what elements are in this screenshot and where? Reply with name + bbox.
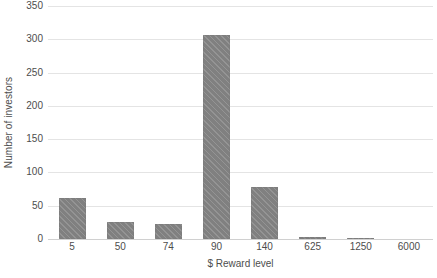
bar-slot [144,6,192,239]
bar [107,222,134,239]
bar [299,237,326,239]
y-axis-tick-label: 250 [26,68,43,78]
x-tick-slot: 50 [96,241,144,257]
y-axis-tick-label: 350 [26,1,43,11]
bar-slot [337,6,385,239]
x-axis-tick-label: 1250 [350,241,372,253]
bar-chart: Number of investors 05010015020025030035… [0,0,437,278]
x-axis-tick-label: 90 [211,241,222,253]
x-tick-slot: 74 [144,241,192,257]
x-axis-tick-label: 74 [163,241,174,253]
y-axis-tick-label: 150 [26,134,43,144]
bar [203,35,230,239]
y-axis-tick-label: 300 [26,34,43,44]
bar [59,198,86,239]
x-tick-slot: 1250 [337,241,385,257]
bar [155,224,182,239]
x-axis-title: $ Reward level [48,258,433,269]
y-axis-title: Number of investors [0,0,18,245]
y-axis-tick-label: 0 [37,234,43,244]
x-tick-slot: 5 [48,241,96,257]
x-tick-slot: 140 [241,241,289,257]
bar-slot [385,6,433,239]
x-axis-tick-labels: 550749014062512506000 [48,241,433,257]
x-axis-tick-label: 6000 [398,241,420,253]
x-axis-tick-label: 5 [69,241,75,253]
y-axis-tick-label: 50 [32,201,43,211]
bar-slot [48,6,96,239]
plot-area [48,6,433,239]
y-axis-title-text: Number of investors [4,77,15,168]
bar-slot [289,6,337,239]
x-tick-slot: 625 [289,241,337,257]
bar-series [48,6,433,239]
bar [251,187,278,239]
x-axis-tick-label: 140 [256,241,273,253]
x-tick-slot: 90 [192,241,240,257]
y-axis-tick-label: 100 [26,167,43,177]
bar-slot [241,6,289,239]
x-axis-tick-label: 50 [115,241,126,253]
axis-baseline [48,239,433,240]
bar-slot [192,6,240,239]
x-tick-slot: 6000 [385,241,433,257]
bar-slot [96,6,144,239]
x-axis-tick-label: 625 [304,241,321,253]
y-axis-tick-labels: 050100150200250300350 [18,0,46,245]
bar [347,238,374,240]
y-axis-tick-label: 200 [26,101,43,111]
